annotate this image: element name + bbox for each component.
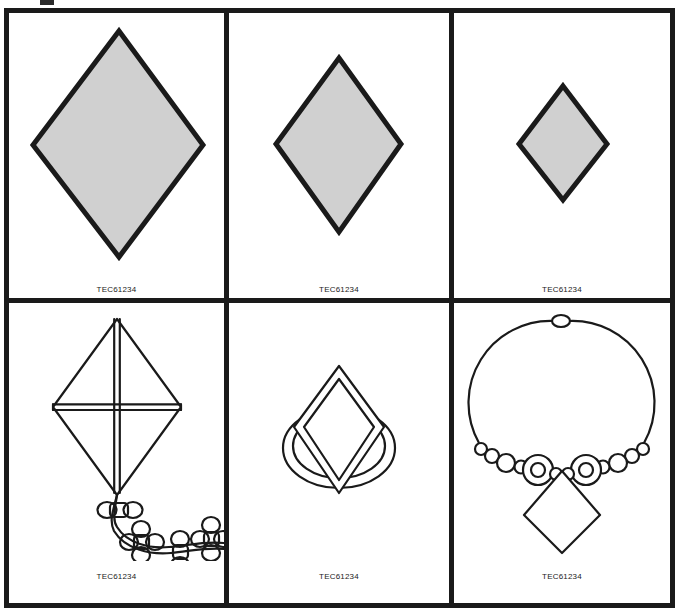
kite-sail-outline [53, 319, 181, 495]
panel-necklace[interactable]: TEC61234 [454, 303, 670, 587]
necklace-beads-left [475, 443, 562, 485]
large-diamond-svg [9, 13, 224, 272]
scan-artifact [40, 0, 54, 5]
necklace-chain-left [469, 321, 555, 443]
panel-label: TEC61234 [9, 572, 224, 581]
kite-horizontal-spar [53, 404, 181, 410]
necklace-clasp [552, 315, 570, 327]
kite-tail-bow-1 [98, 502, 143, 518]
medium-diamond-figure [229, 13, 449, 272]
kite-svg [9, 303, 224, 561]
necklace-beads-right [562, 443, 649, 485]
diamond-shape [33, 31, 203, 257]
kite-tail-bow-2 [120, 521, 164, 561]
kite-figure [9, 303, 224, 561]
ring-svg [229, 303, 449, 561]
kite-tail-bow-4 [191, 517, 224, 561]
panel-label: TEC61234 [454, 572, 670, 581]
necklace-chain-right [567, 321, 655, 443]
panel-kite[interactable]: TEC61234 [9, 303, 224, 587]
necklace-figure [454, 303, 670, 561]
ring-stone-table [304, 379, 374, 480]
panel-large-diamond[interactable]: TEC61234 [9, 13, 224, 298]
kite-tail-bow-3 [171, 531, 189, 561]
panel-label: TEC61234 [454, 285, 670, 294]
diamond-shape [519, 86, 607, 200]
panel-label: TEC61234 [9, 285, 224, 294]
panel-label: TEC61234 [229, 572, 449, 581]
large-diamond-figure [9, 13, 224, 272]
panel-small-diamond[interactable]: TEC61234 [454, 13, 670, 298]
panel-label: TEC61234 [229, 285, 449, 294]
ring-figure [229, 303, 449, 561]
diamond-shape [276, 58, 401, 232]
panel-ring[interactable]: TEC61234 [229, 303, 449, 587]
kite-vertical-spar [114, 319, 120, 493]
panel-medium-diamond[interactable]: TEC61234 [229, 13, 449, 298]
necklace-svg [454, 303, 670, 561]
small-diamond-svg [454, 13, 670, 272]
small-diamond-figure [454, 13, 670, 272]
medium-diamond-svg [229, 13, 449, 272]
